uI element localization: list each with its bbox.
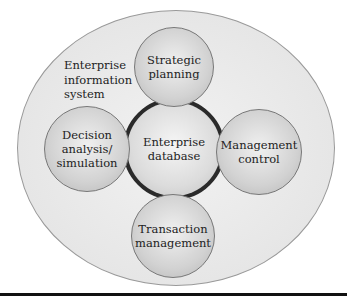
bottom-rule [0,293,347,296]
transaction-management-node: Transaction management [131,194,215,278]
enterprise-database-node: Enterprise database [127,102,221,196]
strategic-planning-node: Strategic planning [134,27,214,107]
decision-analysis-label: Decision analysis/ simulation [56,128,117,170]
transaction-management-label: Transaction management [135,222,211,250]
management-control-label: Management control [221,138,298,166]
decision-analysis-node: Decision analysis/ simulation [44,106,130,192]
enterprise-information-system-label: Enterprise information system [64,58,132,102]
strategic-planning-label: Strategic planning [147,53,201,81]
management-control-node: Management control [216,109,302,195]
enterprise-database-label: Enterprise database [143,135,205,163]
